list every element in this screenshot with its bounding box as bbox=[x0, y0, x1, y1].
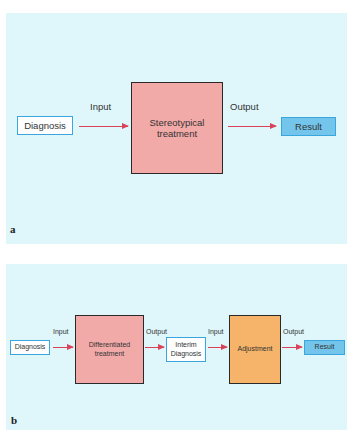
differentiated-treatment-node: Differentiated treatment bbox=[75, 315, 144, 384]
interim-diagnosis-node: Interim Diagnosis bbox=[166, 337, 206, 362]
interim-line-1: Interim bbox=[175, 341, 196, 349]
process-line-2: treatment bbox=[95, 350, 125, 358]
panel-tag-b: b bbox=[11, 414, 17, 426]
output-arrow-b2 bbox=[282, 347, 302, 348]
diagnosis-node-b: Diagnosis bbox=[10, 340, 50, 355]
output-label-a: Output bbox=[230, 101, 259, 112]
diagnosis-label: Diagnosis bbox=[24, 120, 66, 131]
process-line-1: Stereotypical bbox=[150, 117, 205, 128]
interim-line-2: Diagnosis bbox=[171, 350, 202, 358]
input-label-b1: Input bbox=[53, 328, 69, 335]
input-label-b2: Input bbox=[208, 328, 224, 335]
diagnosis-label: Diagnosis bbox=[15, 343, 46, 351]
adjustment-label: Adjustment bbox=[237, 345, 272, 353]
result-label: Result bbox=[315, 343, 335, 351]
diagnosis-node-a: Diagnosis bbox=[17, 116, 73, 135]
output-label-b2: Output bbox=[283, 328, 304, 335]
output-arrow-a bbox=[228, 126, 276, 127]
result-node-b: Result bbox=[304, 340, 345, 355]
process-line-1: Differentiated bbox=[89, 341, 131, 349]
input-arrow-b2 bbox=[208, 347, 227, 348]
output-arrow-b1 bbox=[145, 347, 164, 348]
panel-tag-a: a bbox=[10, 223, 16, 235]
process-line-2: treatment bbox=[157, 128, 197, 139]
result-label: Result bbox=[295, 121, 322, 132]
output-label-b1: Output bbox=[146, 328, 167, 335]
adjustment-node: Adjustment bbox=[229, 315, 281, 384]
input-arrow-b1 bbox=[53, 347, 73, 348]
input-arrow-a bbox=[79, 126, 128, 127]
input-label-a: Input bbox=[90, 101, 111, 112]
stereotypical-treatment-node: Stereotypical treatment bbox=[131, 82, 223, 174]
result-node-a: Result bbox=[281, 117, 336, 136]
